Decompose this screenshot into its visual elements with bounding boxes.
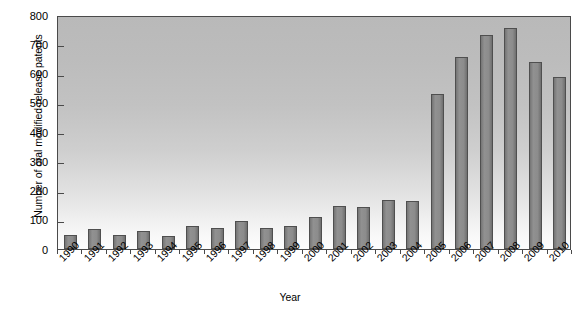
y-axis-tick-mark [58, 163, 64, 164]
bar [504, 28, 517, 249]
bar [480, 35, 493, 249]
plot-area [57, 16, 571, 250]
y-axis-tick-mark [58, 222, 64, 223]
y-axis-tick-mark [58, 105, 64, 106]
y-axis-tick-label: 800 [10, 11, 48, 22]
bar-chart: Number of oral modified-release patents … [0, 0, 580, 311]
y-axis-tick-label: 500 [10, 98, 48, 109]
y-axis-tick-mark [58, 46, 64, 47]
y-axis-tick-label: 100 [10, 215, 48, 226]
y-axis-tick-labels: 0100200300400500600700800 [10, 0, 48, 311]
bar [431, 94, 444, 249]
bar [553, 77, 566, 249]
y-axis-tick-label: 300 [10, 157, 48, 168]
y-axis-tick-label: 200 [10, 186, 48, 197]
y-axis-tick-mark [58, 193, 64, 194]
x-axis-title: Year [0, 291, 580, 303]
y-axis-tick-label: 600 [10, 69, 48, 80]
y-axis-tick-label: 700 [10, 40, 48, 51]
y-axis-tick-label: 400 [10, 128, 48, 139]
bar [455, 57, 468, 249]
y-axis-tick-mark [58, 134, 64, 135]
y-axis-tick-label: 0 [10, 245, 48, 256]
y-axis-tick-mark [58, 76, 64, 77]
x-axis-tick-mark [571, 250, 572, 254]
bar [529, 62, 542, 249]
bars-layer [58, 17, 570, 249]
